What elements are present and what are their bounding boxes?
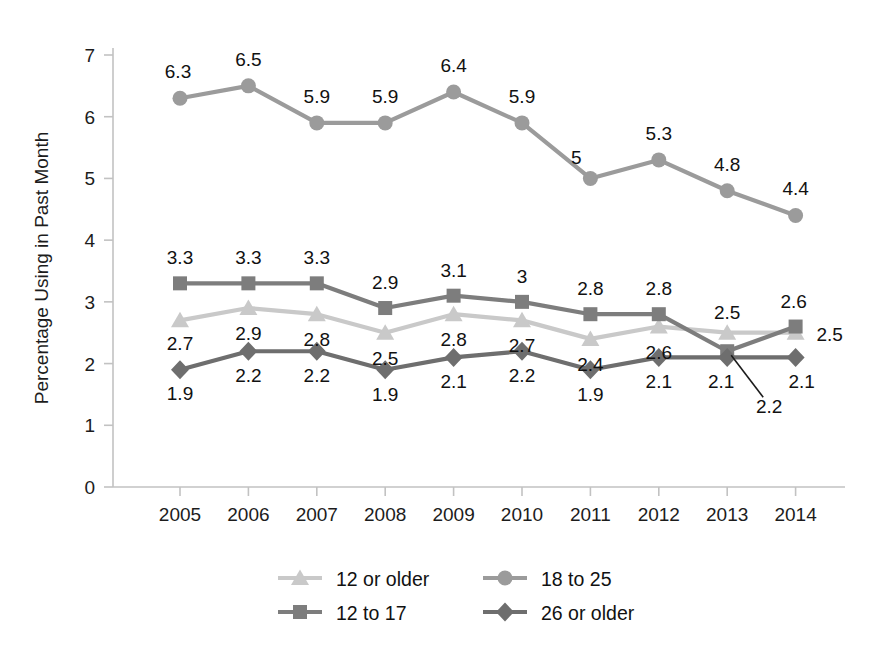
x-axis-tick-labels: 2005200620072008200920102011201220132014 <box>159 504 817 525</box>
data-point-square <box>173 276 187 290</box>
legend-label: 12 or older <box>336 568 430 590</box>
annotation-layer: 2.2 <box>731 355 782 417</box>
data-label: 3.3 <box>235 247 261 268</box>
data-label: 2.2 <box>304 365 330 386</box>
data-point-circle <box>241 78 256 93</box>
legend-label: 18 to 25 <box>541 568 612 590</box>
data-label: 4.4 <box>782 178 809 199</box>
data-label: 2.2 <box>509 365 535 386</box>
annotation-leader-line <box>731 355 763 397</box>
data-point-circle <box>173 91 188 106</box>
series-line <box>180 86 796 216</box>
data-label: 6.3 <box>165 61 191 82</box>
data-point-circle <box>788 208 803 223</box>
annotation-label: 2.2 <box>756 396 782 417</box>
data-label: 6.4 <box>440 55 467 76</box>
data-point-square <box>789 320 803 334</box>
y-axis-title: Percentage Using in Past Month <box>31 132 52 405</box>
data-point-square <box>293 605 307 619</box>
data-point-square <box>583 307 597 321</box>
series-line <box>180 351 796 370</box>
x-tick-label: 2006 <box>227 504 269 525</box>
x-tick-label: 2014 <box>774 504 817 525</box>
data-label: 2.8 <box>440 329 466 350</box>
data-label: 1.9 <box>167 383 193 404</box>
data-label: 2.7 <box>167 333 193 354</box>
data-label: 2.5 <box>372 348 398 369</box>
legend-item-12-to-17[interactable]: 12 to 17 <box>278 602 406 624</box>
data-label: 1.9 <box>577 384 603 405</box>
data-label: 3.1 <box>440 260 466 281</box>
series-12-or-older <box>171 300 805 346</box>
y-tick-label: 7 <box>84 45 95 66</box>
data-label: 2.7 <box>509 335 535 356</box>
y-axis-tick-labels: 01234567 <box>84 45 95 498</box>
x-tick-label: 2009 <box>432 504 474 525</box>
x-tick-label: 2012 <box>638 504 680 525</box>
data-label: 2.8 <box>577 278 603 299</box>
data-label: 1.9 <box>372 384 398 405</box>
data-point-diamond <box>787 348 805 367</box>
line-chart: Percentage Using in Past Month 01234567 … <box>0 0 879 658</box>
data-label: 3.3 <box>304 247 330 268</box>
data-point-square <box>310 276 324 290</box>
y-tick-label: 4 <box>84 230 95 251</box>
data-point-square <box>652 307 666 321</box>
data-point-circle <box>720 183 735 198</box>
data-point-diamond <box>445 348 463 367</box>
data-label: 6.5 <box>235 49 261 70</box>
data-label: 4.8 <box>714 154 740 175</box>
y-tick-label: 2 <box>84 354 95 375</box>
data-label: 2.8 <box>646 278 672 299</box>
data-label: 2.2 <box>235 365 261 386</box>
data-point-circle <box>583 171 598 186</box>
legend-label: 26 or older <box>541 602 635 624</box>
data-point-diamond <box>171 360 189 379</box>
data-point-square <box>447 289 461 303</box>
data-label: 5.9 <box>372 86 398 107</box>
data-point-circle <box>309 115 324 130</box>
data-point-square <box>241 276 255 290</box>
x-tick-label: 2011 <box>570 504 611 525</box>
data-point-circle <box>446 85 461 100</box>
legend-item-18-to-25[interactable]: 18 to 25 <box>483 568 612 590</box>
x-tick-label: 2010 <box>501 504 543 525</box>
y-tick-label: 5 <box>84 168 95 189</box>
x-tick-label: 2005 <box>159 504 201 525</box>
legend-item-26-or-older[interactable]: 26 or older <box>483 602 635 624</box>
data-label: 5.9 <box>304 86 330 107</box>
data-point-circle <box>515 115 530 130</box>
data-label: 2.9 <box>235 323 261 344</box>
data-label: 3 <box>517 266 528 287</box>
data-point-square <box>515 295 529 309</box>
x-tick-label: 2013 <box>706 504 748 525</box>
x-tick-label: 2008 <box>364 504 406 525</box>
data-point-circle <box>651 152 666 167</box>
axis-lines <box>113 48 845 487</box>
data-label: 2.6 <box>780 291 806 312</box>
y-tick-label: 6 <box>84 107 95 128</box>
series-line <box>180 308 796 339</box>
y-tick-label: 3 <box>84 292 95 313</box>
data-point-circle <box>498 571 513 586</box>
chart-legend: 12 or older18 to 2512 to 1726 or older <box>278 568 635 624</box>
x-axis-ticks <box>180 487 796 496</box>
data-label: 5 <box>571 147 582 168</box>
series-layer <box>171 78 805 379</box>
legend-label: 12 to 17 <box>336 602 406 624</box>
data-point-diamond <box>239 342 257 361</box>
data-label: 2.4 <box>577 354 604 375</box>
data-label: 5.3 <box>646 123 672 144</box>
data-label: 3.3 <box>167 247 193 268</box>
data-label: 2.1 <box>646 371 672 392</box>
data-label: 2.9 <box>372 272 398 293</box>
legend-item-12-or-older[interactable]: 12 or older <box>278 568 430 590</box>
y-axis-ticks <box>104 55 113 487</box>
data-label: 2.1 <box>440 371 466 392</box>
data-label: 2.1 <box>708 371 734 392</box>
x-tick-label: 2007 <box>296 504 338 525</box>
data-point-diamond <box>496 603 514 622</box>
data-label: 2.5 <box>714 302 740 323</box>
data-label: 2.1 <box>788 371 814 392</box>
data-point-circle <box>378 115 393 130</box>
